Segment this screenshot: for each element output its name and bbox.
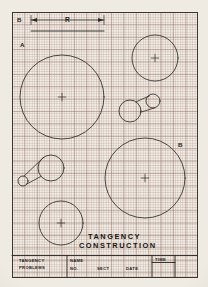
drawing-sheet: B A B R TANGENCY CONSTRUCTION TANGENCY P… xyxy=(0,0,208,287)
dimension-label-r: R xyxy=(65,17,70,24)
title-block-sect-label: SECT xyxy=(97,266,109,272)
label-a: A xyxy=(20,42,25,48)
title-block-problem-line2: PROBLEMS xyxy=(19,265,45,271)
title-block-name-label: NAME xyxy=(70,258,83,264)
drawing-title-line2: CONSTRUCTION xyxy=(79,241,157,251)
circle-b-large xyxy=(105,138,185,218)
tangent-pair-lower xyxy=(18,155,64,186)
title-block-date-label: DATE xyxy=(126,266,138,272)
label-b-top: B xyxy=(17,17,22,23)
label-b-right: B xyxy=(178,142,183,148)
circle-top-right xyxy=(132,35,178,81)
title-block-time-label: TIME xyxy=(155,257,166,263)
circle-a-large xyxy=(20,55,104,139)
tangent-pair-middle xyxy=(119,94,160,122)
circle-bottom-left xyxy=(39,201,83,245)
title-block-problem-line1: TANGENCY xyxy=(19,258,44,264)
title-block-no-label: NO. xyxy=(70,266,78,272)
